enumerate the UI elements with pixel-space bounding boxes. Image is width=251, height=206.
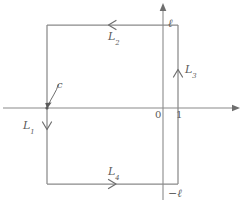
real-axis-arrowhead: [232, 105, 240, 112]
diagram-canvas: [0, 0, 251, 206]
contour-path-group: [47, 25, 178, 184]
contour-integration-diagram: ℓ −ℓ 0 1 c L1 L2 L3 L4: [0, 0, 251, 206]
axis-tick-label-one: 1: [176, 110, 182, 120]
axis-tick-label-zero: 0: [155, 110, 161, 120]
point-label-c: c: [57, 80, 63, 90]
segment-label-L2: L2: [108, 31, 120, 45]
axes-group: [3, 6, 237, 200]
segment-label-L1: L1: [23, 120, 35, 134]
segment-label-L3-subscript: 3: [192, 72, 196, 80]
direction-arrows-group: [43, 21, 183, 189]
segment-label-L3: L3: [185, 64, 197, 78]
segment-label-L4-subscript: 4: [115, 174, 119, 182]
point-c-marker: [45, 106, 48, 109]
segment-label-L2-subscript: 2: [115, 39, 119, 47]
axis-label-ell-top: ℓ: [168, 18, 173, 29]
axis-label-ell-bottom: −ℓ: [168, 188, 182, 199]
imaginary-axis-arrowhead: [160, 3, 167, 11]
segment-label-L4: L4: [108, 166, 120, 180]
segment-label-L1-subscript: 1: [30, 128, 34, 136]
